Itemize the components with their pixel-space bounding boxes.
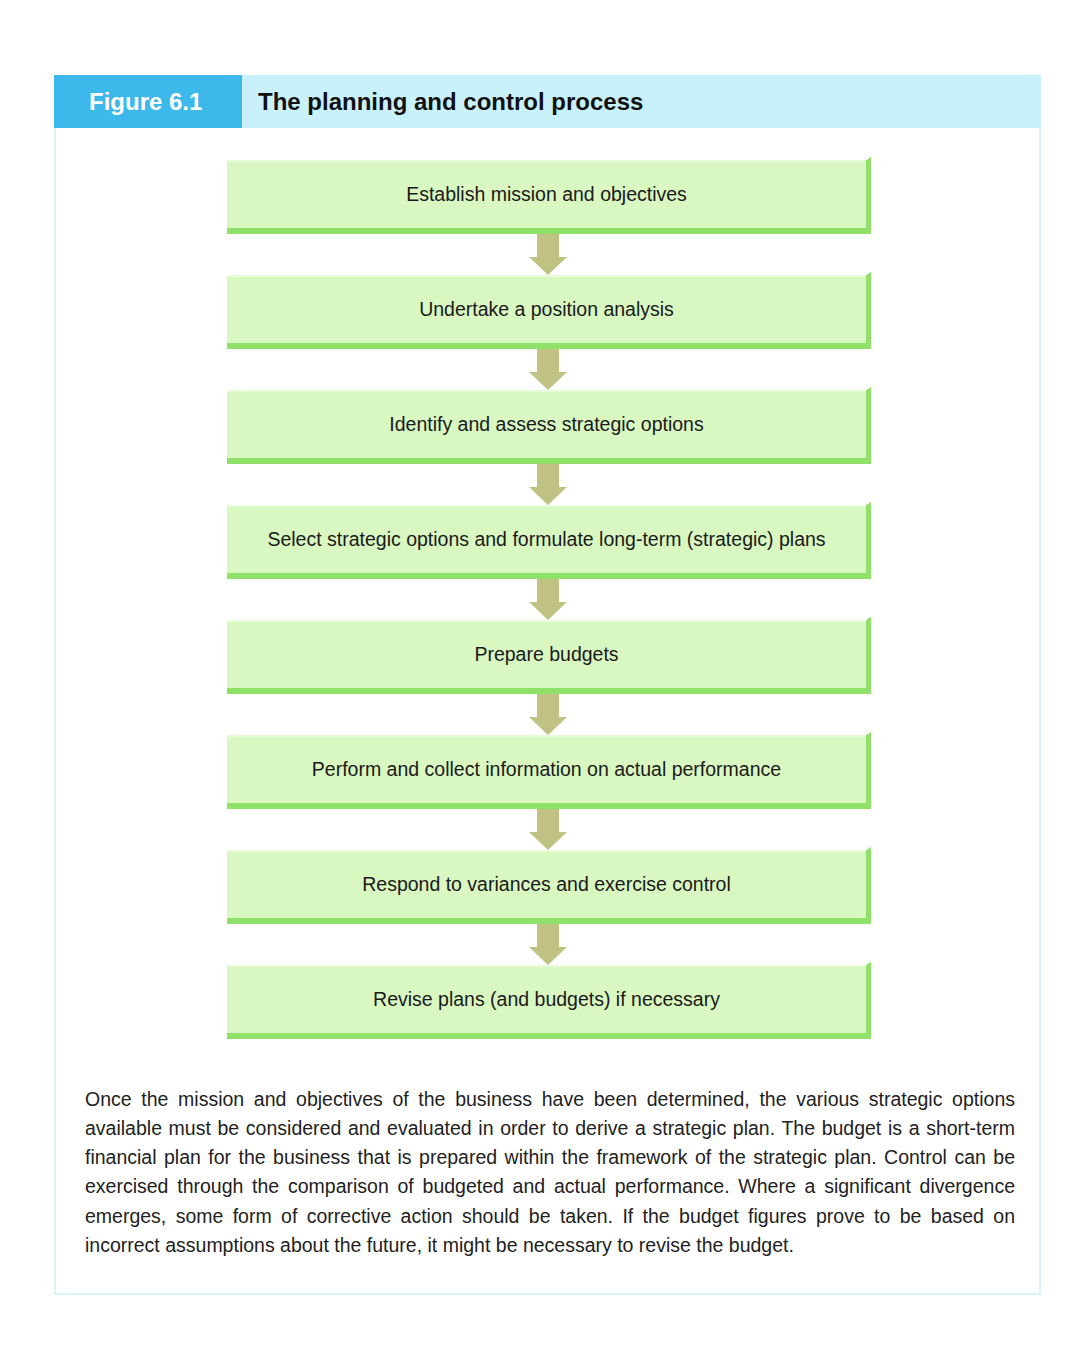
down-arrow-icon [227, 464, 871, 505]
down-arrow-icon [227, 924, 871, 965]
down-arrow-icon [227, 349, 871, 390]
figure-description: Once the mission and objectives of the b… [85, 1085, 1015, 1261]
flow-step-respond-variances: Respond to variances and exercise contro… [227, 850, 871, 924]
flow-step-collect-performance: Perform and collect information on actua… [227, 735, 871, 809]
down-arrow-icon [227, 234, 871, 275]
figure-header: Figure 6.1 The planning and control proc… [54, 75, 1041, 128]
flow-step-establish-mission: Establish mission and objectives [227, 160, 871, 234]
down-arrow-icon [227, 579, 871, 620]
down-arrow-icon [227, 809, 871, 850]
flow-step-select-options: Select strategic options and formulate l… [227, 505, 871, 579]
flow-step-revise-plans: Revise plans (and budgets) if necessary [227, 965, 871, 1039]
flow-step-prepare-budgets: Prepare budgets [227, 620, 871, 694]
flow-step-position-analysis: Undertake a position analysis [227, 275, 871, 349]
flowchart: Establish mission and objectives Underta… [227, 160, 871, 1039]
figure-number-label: Figure 6.1 [54, 75, 242, 128]
down-arrow-icon [227, 694, 871, 735]
flow-step-identify-options: Identify and assess strategic options [227, 390, 871, 464]
figure-title: The planning and control process [242, 75, 643, 128]
